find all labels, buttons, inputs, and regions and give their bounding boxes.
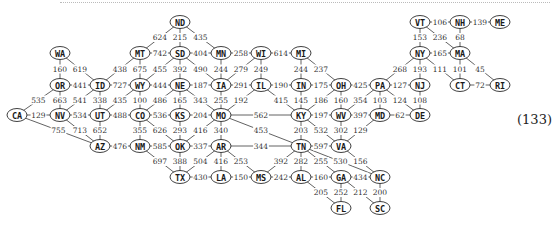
edge-weight: 534 — [73, 111, 88, 120]
node-label: UT — [95, 111, 105, 121]
state-adjacency-graph: 6242154351061391532366816061974240425861… — [0, 0, 560, 227]
edge-weight: 293 — [173, 126, 188, 135]
edge-weight: 197 — [314, 111, 329, 120]
node-ri: RI — [490, 79, 510, 92]
edge-weight: 242 — [274, 173, 289, 182]
node-label: GA — [336, 173, 346, 183]
edge-weight: 103 — [373, 96, 388, 105]
edge-weight: 203 — [294, 126, 309, 135]
node-label: IL — [256, 81, 266, 91]
edge-weight: 441 — [73, 81, 87, 90]
edge-weight: 252 — [334, 188, 349, 197]
node-me: ME — [490, 16, 510, 29]
node-ne: NE — [170, 79, 190, 92]
edge-weight: 282 — [294, 157, 309, 166]
edge-weight: 438 — [113, 65, 128, 74]
edge-weight: 486 — [153, 96, 168, 105]
node-label: MD — [375, 111, 385, 121]
edge-weight: 355 — [133, 126, 148, 135]
edge-weight: 392 — [173, 65, 188, 74]
node-label: NM — [135, 142, 145, 152]
node-label: FL — [336, 204, 346, 214]
edge-weight: 237 — [314, 65, 329, 74]
edge-weight: 150 — [234, 173, 249, 182]
edge-weight: 279 — [234, 65, 249, 74]
node-ms: MS — [251, 171, 271, 184]
node-wa: WA — [50, 47, 70, 60]
node-label: KY — [296, 111, 307, 121]
node-label: CT — [455, 81, 465, 91]
edge-weight: 490 — [193, 65, 208, 74]
edge-weight: 68 — [455, 33, 465, 42]
node-label: WV — [336, 111, 346, 121]
edge-weight: 530 — [333, 157, 348, 166]
edge-weight: 124 — [393, 96, 408, 105]
edge-weight: 532 — [314, 126, 329, 135]
edge-weight: 106 — [433, 18, 448, 27]
edge-weight: 108 — [413, 96, 428, 105]
edge-weight: 129 — [353, 126, 368, 135]
node-de: DE — [410, 109, 430, 122]
edge-weight: 255 — [214, 96, 229, 105]
edge-weight: 388 — [173, 157, 188, 166]
edge-weight: 416 — [214, 157, 229, 166]
edge-weight: 192 — [234, 96, 249, 105]
edge-weight: 430 — [193, 173, 208, 182]
node-label: PA — [375, 81, 385, 91]
node-mo: MO — [211, 109, 231, 122]
edge-weight: 614 — [274, 49, 289, 58]
edge-weight: 435 — [193, 33, 208, 42]
edge-weight: 397 — [353, 111, 368, 120]
node-tx: TX — [170, 171, 190, 184]
edge-weight: 186 — [314, 96, 329, 105]
node-label: SD — [175, 49, 185, 59]
node-ma: MA — [450, 47, 470, 60]
edge-weight: 488 — [113, 111, 128, 120]
edge-weight: 139 — [473, 18, 488, 27]
node-az: AZ — [90, 140, 110, 153]
node-nv: NV — [50, 109, 70, 122]
edge-weight: 453 — [254, 126, 269, 135]
edge-weight: 415 — [274, 96, 289, 105]
edge-weight: 200 — [373, 188, 388, 197]
edge-weight: 153 — [413, 33, 428, 42]
node-fl: FL — [331, 202, 351, 215]
edge-weight: 190 — [274, 81, 289, 90]
node-label: SC — [375, 204, 385, 214]
edge-weight: 354 — [353, 96, 368, 105]
node-mi: MI — [291, 47, 311, 60]
edge-weight: 160 — [314, 173, 329, 182]
edge-weight: 585 — [153, 142, 168, 151]
equation-number: (133) — [517, 112, 552, 127]
edge-weight: 619 — [73, 65, 88, 74]
node-label: ID — [95, 81, 105, 91]
node-label: AL — [296, 173, 306, 183]
edge-weight: 127 — [393, 81, 408, 90]
edge-weight: 258 — [234, 49, 249, 58]
edge-weight: 597 — [314, 142, 329, 151]
node-ok: OK — [170, 140, 190, 153]
node-il: IL — [251, 79, 271, 92]
node-oh: OH — [331, 79, 351, 92]
edge-weight: 338 — [93, 96, 108, 105]
edge-weight: 337 — [193, 142, 208, 151]
edge-weight: 536 — [153, 111, 168, 120]
node-label: AR — [216, 142, 227, 152]
node-ga: GA — [331, 171, 351, 184]
edge-weight: 697 — [153, 157, 168, 166]
node-ct: CT — [450, 79, 470, 92]
node-label: MO — [216, 111, 226, 121]
edge-weight: 129 — [31, 111, 46, 120]
node-va: VA — [331, 140, 351, 153]
node-ca: CA — [7, 109, 27, 122]
node-label: NC — [375, 173, 385, 183]
node-co: CO — [130, 109, 150, 122]
node-label: NH — [455, 18, 465, 28]
edge-weight: 244 — [294, 65, 309, 74]
edge-weight: 175 — [314, 81, 329, 90]
node-wy: WY — [130, 79, 150, 92]
edge-weight: 249 — [254, 65, 269, 74]
edge-weight: 187 — [193, 81, 208, 90]
node-label: VT — [415, 18, 425, 28]
node-label: ME — [495, 18, 505, 28]
